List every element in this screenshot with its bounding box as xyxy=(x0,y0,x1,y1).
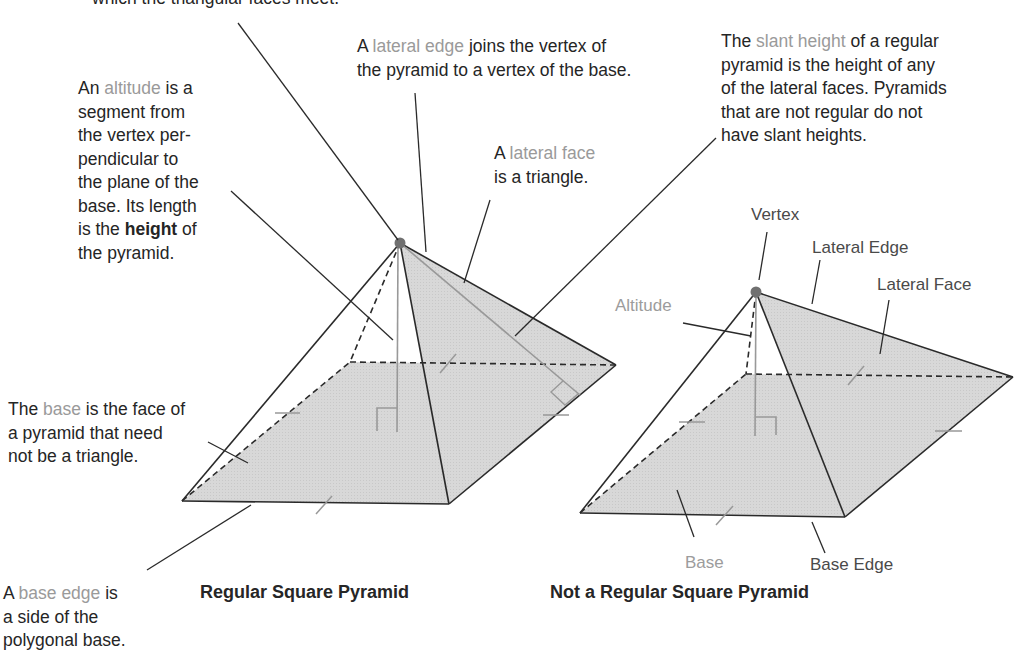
lateral-face-annotation: A lateral face is a triangle. xyxy=(494,142,595,189)
term-lateral-face: lateral face xyxy=(510,143,596,163)
lateral-face-line-2: is a triangle. xyxy=(494,166,595,190)
altitude-line-8: the pyramid. xyxy=(78,242,199,266)
altitude-line-3: the vertex per- xyxy=(78,124,199,148)
leader-base-edge xyxy=(147,505,251,570)
altitude-line-2: segment from xyxy=(78,101,199,125)
lateral-edge-line-2: the pyramid to a vertex of the base. xyxy=(357,59,631,83)
base-edge-line-1: A base edge is xyxy=(3,582,126,606)
irregular-altitude xyxy=(755,294,756,436)
leader-r-vertex xyxy=(759,232,767,280)
term-height: height xyxy=(125,219,178,239)
altitude-line-7: is the height of xyxy=(78,218,199,242)
term-lateral-edge: lateral edge xyxy=(373,36,464,56)
term-slant-height: slant height xyxy=(756,31,846,51)
regular-pyramid xyxy=(182,238,616,515)
base-edge-line-3: polygonal base. xyxy=(3,629,126,653)
base-edge-line-2: a side of the xyxy=(3,606,126,630)
tag-altitude: Altitude xyxy=(615,296,672,316)
leader-r-altitude xyxy=(683,323,751,336)
irregular-pyramid xyxy=(580,287,1013,526)
base-line-1: The base is the face of xyxy=(8,398,185,422)
base-line-3: not be a triangle. xyxy=(8,445,185,469)
tag-vertex: Vertex xyxy=(751,205,799,225)
tag-lateral-face: Lateral Face xyxy=(877,275,972,295)
top-note-text: which the triangular faces meet. xyxy=(92,0,339,8)
leader-r-lateral-edge xyxy=(812,260,820,304)
leader-lateral-face xyxy=(464,200,490,283)
leader-r-base-edge xyxy=(812,522,825,553)
slant-line-3: of the lateral faces. Pyramids xyxy=(721,77,947,101)
lateral-edge-annotation: A lateral edge joins the vertex of the p… xyxy=(357,35,631,82)
leader-altitude xyxy=(231,191,393,340)
top-note: which the triangular faces meet. xyxy=(92,0,339,11)
tag-base: Base xyxy=(685,553,724,573)
regular-vertex-dot xyxy=(395,238,406,249)
term-base-edge: base edge xyxy=(19,583,101,603)
term-base: base xyxy=(43,399,81,419)
altitude-line-5: the plane of the xyxy=(78,171,199,195)
tag-base-edge: Base Edge xyxy=(810,555,893,575)
caption-regular-pyramid: Regular Square Pyramid xyxy=(200,582,409,603)
caption-not-regular-pyramid: Not a Regular Square Pyramid xyxy=(550,582,809,603)
altitude-annotation: An altitude is a segment from the vertex… xyxy=(78,77,199,265)
slant-line-5: have slant heights. xyxy=(721,124,947,148)
base-annotation: The base is the face of a pyramid that n… xyxy=(8,398,185,469)
irregular-vertex-dot xyxy=(751,287,762,298)
slant-line-2: pyramid is the height of any xyxy=(721,54,947,78)
base-line-2: a pyramid that need xyxy=(8,422,185,446)
slant-line-4: that are not regular do not xyxy=(721,101,947,125)
altitude-line-4: pendicular to xyxy=(78,148,199,172)
lateral-edge-line-1: A lateral edge joins the vertex of xyxy=(357,35,631,59)
term-altitude: altitude xyxy=(104,78,160,98)
slant-line-1: The slant height of a regular xyxy=(721,30,947,54)
leader-lateral-edge xyxy=(415,93,426,252)
base-edge-annotation: A base edge is a side of the polygonal b… xyxy=(3,582,126,653)
altitude-line-6: base. Its length xyxy=(78,195,199,219)
lateral-face-line-1: A lateral face xyxy=(494,142,595,166)
altitude-line-1: An altitude is a xyxy=(78,77,199,101)
tag-lateral-edge: Lateral Edge xyxy=(812,238,908,258)
slant-height-annotation: The slant height of a regular pyramid is… xyxy=(721,30,947,148)
regular-altitude xyxy=(397,245,398,432)
